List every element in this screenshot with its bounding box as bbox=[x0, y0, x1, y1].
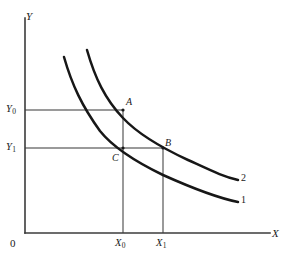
point-label-b: B bbox=[165, 138, 171, 148]
x-axis-label: X bbox=[272, 228, 279, 239]
point-label-a: A bbox=[126, 97, 132, 107]
y-tick-y1-sub: 1 bbox=[12, 145, 16, 154]
guide-lines-group bbox=[25, 110, 163, 233]
origin-label: 0 bbox=[10, 238, 16, 249]
y-axis-label: Y bbox=[26, 11, 32, 22]
x-tick-label-x0: X0 bbox=[115, 238, 125, 249]
curves-group bbox=[64, 50, 238, 202]
y-tick-label-y1: Y1 bbox=[6, 142, 16, 153]
curve-label-1: 1 bbox=[241, 195, 246, 205]
x-tick-x1-sub: 1 bbox=[163, 241, 167, 250]
y-tick-y0-sub: 0 bbox=[12, 107, 16, 116]
figure-container: Y X 0 Y0 Y1 X0 X1 A B C 2 1 bbox=[0, 0, 289, 257]
curve-label-2: 2 bbox=[241, 173, 246, 183]
x-tick-x0-sub: 0 bbox=[122, 241, 126, 250]
curve-diagram-svg bbox=[0, 0, 289, 257]
point-marker-c bbox=[121, 146, 124, 149]
x-tick-x0-base: X bbox=[115, 237, 121, 248]
y-tick-y1-base: Y bbox=[6, 141, 12, 152]
x-tick-label-x1: X1 bbox=[156, 238, 166, 249]
curve-1-path bbox=[64, 57, 238, 202]
y-tick-y0-base: Y bbox=[6, 103, 12, 114]
y-tick-label-y0: Y0 bbox=[6, 104, 16, 115]
point-marker-a bbox=[121, 108, 124, 111]
x-tick-x1-base: X bbox=[156, 237, 162, 248]
point-label-c: C bbox=[112, 153, 119, 163]
